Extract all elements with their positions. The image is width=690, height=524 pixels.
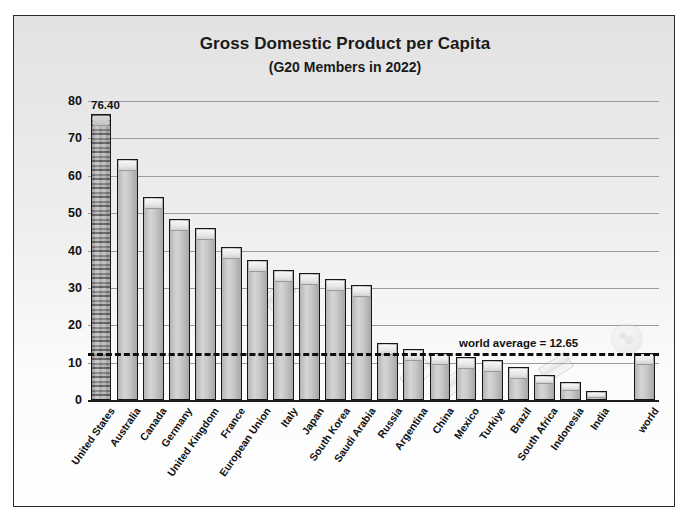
value-label-united-states: 76.40 bbox=[91, 99, 120, 111]
bar-cap bbox=[458, 359, 475, 369]
chart-figure: Gross Domestic Product per Capita (G20 M… bbox=[0, 0, 690, 524]
bar-cap bbox=[510, 369, 527, 379]
bar-italy[interactable] bbox=[273, 270, 294, 400]
reference-line-label: world average = 12.65 bbox=[459, 337, 578, 349]
bar-cap bbox=[432, 355, 449, 365]
bar-cap bbox=[145, 199, 162, 209]
bar-south-africa[interactable] bbox=[534, 375, 555, 400]
bar-cap bbox=[93, 116, 110, 126]
bar-cap bbox=[327, 281, 344, 291]
bar-turkiye[interactable] bbox=[482, 360, 503, 400]
bar-cap bbox=[119, 161, 136, 171]
bar-japan[interactable] bbox=[299, 273, 320, 400]
bar-european-union[interactable] bbox=[247, 260, 268, 400]
bar-canada[interactable] bbox=[143, 197, 164, 400]
bar-cap bbox=[171, 221, 188, 231]
bar-cap bbox=[197, 230, 214, 240]
gridline bbox=[88, 101, 659, 102]
bar-cap bbox=[588, 393, 605, 398]
bar-cap bbox=[562, 384, 579, 391]
bar-united-kingdom[interactable] bbox=[195, 228, 216, 400]
bar-cap bbox=[275, 272, 292, 282]
gridline bbox=[88, 138, 659, 139]
watermark-globe-icon bbox=[611, 323, 643, 355]
bar-cap bbox=[353, 287, 370, 297]
bar-cap bbox=[223, 249, 240, 259]
x-axis-line bbox=[88, 400, 659, 402]
bar-south-korea[interactable] bbox=[325, 279, 346, 400]
bar-indonesia[interactable] bbox=[560, 382, 581, 400]
bar-australia[interactable] bbox=[117, 159, 138, 400]
bar-cap bbox=[249, 262, 266, 272]
bar-united-states[interactable] bbox=[91, 114, 112, 400]
bar-china[interactable] bbox=[430, 353, 451, 400]
bar-brazil[interactable] bbox=[508, 367, 529, 400]
bar-argentina[interactable] bbox=[403, 349, 424, 400]
bar-cap bbox=[301, 275, 318, 285]
gridline bbox=[88, 213, 659, 214]
bar-cap bbox=[636, 355, 653, 365]
bar-world[interactable] bbox=[634, 353, 655, 400]
bar-cap bbox=[484, 362, 501, 372]
bar-saudi-arabia[interactable] bbox=[351, 285, 372, 400]
bar-france[interactable] bbox=[221, 247, 242, 400]
bar-germany[interactable] bbox=[169, 219, 190, 400]
bar-cap bbox=[536, 377, 553, 384]
reference-line bbox=[88, 353, 659, 356]
bar-russia[interactable] bbox=[377, 343, 398, 400]
bar-india[interactable] bbox=[586, 391, 607, 400]
bar-mexico[interactable] bbox=[456, 357, 477, 400]
gridline bbox=[88, 176, 659, 177]
